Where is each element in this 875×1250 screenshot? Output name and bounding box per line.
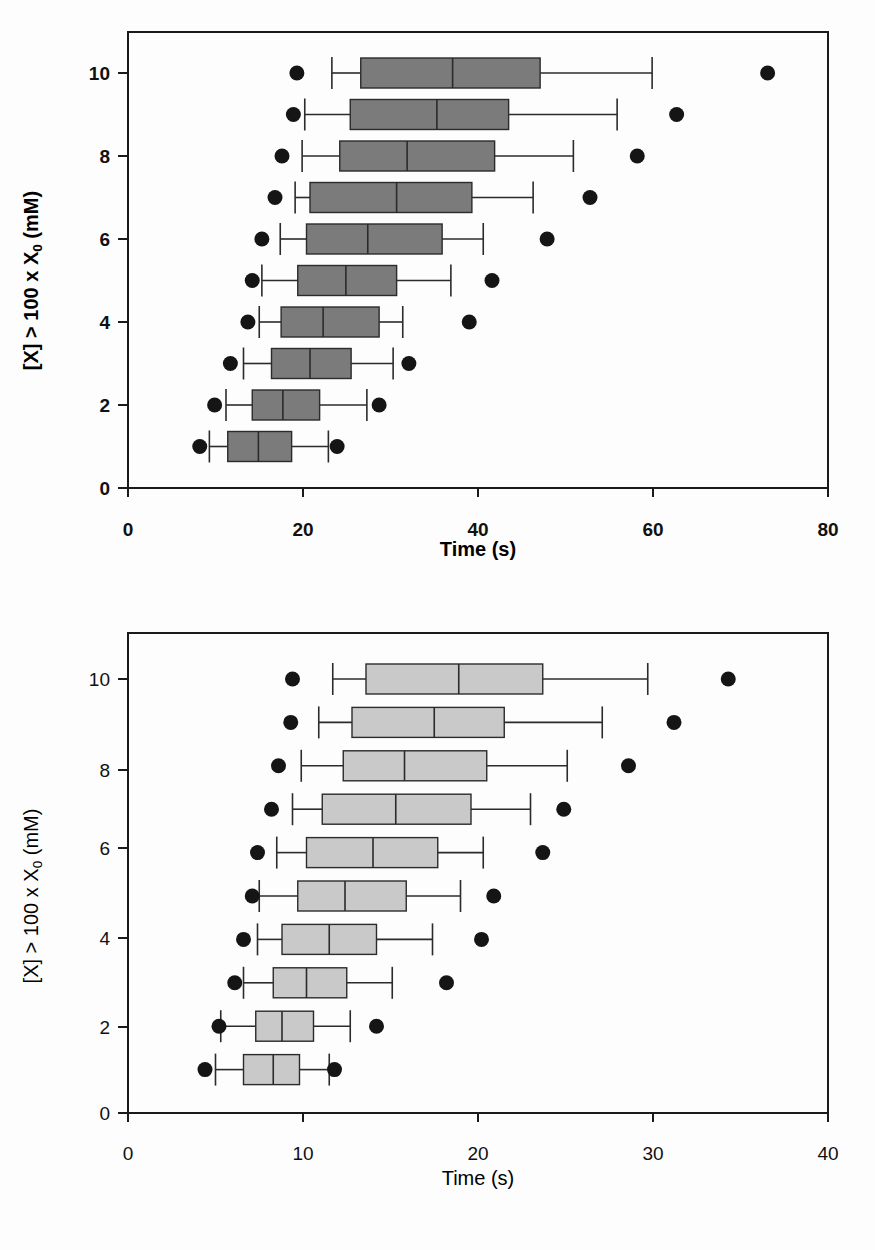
box-iqr bbox=[244, 1055, 300, 1085]
y-tick-label: 2 bbox=[99, 395, 110, 416]
box-iqr bbox=[352, 707, 504, 737]
outlier-point bbox=[268, 190, 283, 205]
plot-frame bbox=[128, 633, 828, 1113]
outlier-point bbox=[630, 149, 645, 164]
outlier-point bbox=[721, 672, 736, 687]
outlier-point bbox=[621, 758, 636, 773]
outlier-point bbox=[540, 232, 555, 247]
outlier-point bbox=[240, 315, 255, 330]
outlier-point bbox=[327, 1062, 342, 1077]
outlier-point bbox=[271, 758, 286, 773]
box-iqr bbox=[252, 390, 319, 420]
outlier-point bbox=[245, 273, 260, 288]
outlier-point bbox=[401, 356, 416, 371]
box-iqr bbox=[361, 58, 540, 88]
y-axis-title-suffix: (mM) bbox=[20, 191, 42, 244]
y-axis-title-prefix: [X] > 100 x X bbox=[20, 251, 42, 370]
outlier-point bbox=[583, 190, 598, 205]
y-axis-title-suffix: (mM) bbox=[20, 809, 42, 861]
boxplot-row bbox=[245, 880, 502, 912]
boxplot-row bbox=[245, 265, 500, 297]
x-tick-label: 20 bbox=[292, 519, 313, 540]
y-tick-label: 10 bbox=[89, 669, 110, 690]
outlier-point bbox=[283, 715, 298, 730]
outlier-point bbox=[192, 439, 207, 454]
boxplot-row bbox=[275, 140, 645, 172]
box-iqr bbox=[310, 183, 472, 213]
x-tick-label: 0 bbox=[123, 1143, 134, 1164]
figure-page: 020406080Time (s)0246810[X] > 100 x X0 (… bbox=[0, 0, 875, 1250]
outlier-point bbox=[227, 975, 242, 990]
outlier-point bbox=[245, 889, 260, 904]
chart-panel-bottom: 010203040Time (s)0246810[X] > 100 x X0 (… bbox=[0, 625, 875, 1250]
outlier-point bbox=[275, 149, 290, 164]
boxplot-bottom: 010203040Time (s)0246810[X] > 100 x X0 (… bbox=[0, 625, 875, 1250]
x-tick-label: 40 bbox=[467, 519, 488, 540]
outlier-point bbox=[669, 107, 684, 122]
y-axis-title-prefix: [X] > 100 x X bbox=[20, 868, 42, 983]
box-iqr bbox=[350, 100, 508, 130]
box-iqr bbox=[340, 141, 495, 171]
boxplot-row bbox=[285, 663, 736, 695]
boxplot-row bbox=[268, 182, 598, 214]
boxplot-row bbox=[289, 57, 775, 89]
outlier-point bbox=[264, 802, 279, 817]
outlier-point bbox=[760, 66, 775, 81]
x-tick-label: 10 bbox=[292, 1143, 313, 1164]
outlier-point bbox=[207, 398, 222, 413]
boxplot-row bbox=[236, 923, 489, 955]
boxplot-row bbox=[286, 99, 684, 131]
outlier-point bbox=[485, 273, 500, 288]
boxplot-row bbox=[264, 793, 571, 825]
outlier-point bbox=[250, 845, 265, 860]
outlier-point bbox=[223, 356, 238, 371]
y-tick-label: 8 bbox=[99, 146, 110, 167]
x-tick-label: 30 bbox=[642, 1143, 663, 1164]
y-axis-title-subscript: 0 bbox=[30, 244, 45, 252]
x-tick-label: 0 bbox=[123, 519, 134, 540]
outlier-point bbox=[254, 232, 269, 247]
x-tick-label: 20 bbox=[467, 1143, 488, 1164]
outlier-point bbox=[198, 1062, 213, 1077]
boxplot-row bbox=[198, 1054, 343, 1086]
y-tick-label: 10 bbox=[89, 63, 110, 84]
outlier-point bbox=[286, 107, 301, 122]
boxplot-row bbox=[212, 1010, 385, 1042]
outlier-point bbox=[212, 1019, 227, 1034]
box-iqr bbox=[366, 664, 543, 694]
y-tick-label: 4 bbox=[99, 312, 110, 333]
box-iqr bbox=[228, 432, 292, 462]
outlier-point bbox=[372, 398, 387, 413]
outlier-point bbox=[667, 715, 682, 730]
y-tick-label: 2 bbox=[99, 1017, 110, 1038]
x-axis-title: Time (s) bbox=[442, 1167, 515, 1189]
outlier-point bbox=[474, 932, 489, 947]
x-tick-label: 60 bbox=[642, 519, 663, 540]
y-tick-label: 0 bbox=[99, 478, 110, 499]
boxplot-row bbox=[271, 750, 636, 782]
box-iqr bbox=[307, 838, 438, 868]
y-tick-label: 4 bbox=[99, 928, 110, 949]
chart-panel-top: 020406080Time (s)0246810[X] > 100 x X0 (… bbox=[0, 0, 875, 625]
y-tick-label: 6 bbox=[99, 838, 110, 859]
outlier-point bbox=[330, 439, 345, 454]
y-tick-label: 8 bbox=[99, 760, 110, 781]
box-iqr bbox=[281, 307, 379, 337]
outlier-point bbox=[289, 66, 304, 81]
boxplot-row bbox=[250, 837, 550, 869]
boxplot-row bbox=[227, 967, 454, 999]
outlier-point bbox=[369, 1019, 384, 1034]
x-tick-label: 80 bbox=[817, 519, 838, 540]
box-iqr bbox=[298, 881, 407, 911]
box-iqr bbox=[322, 794, 471, 824]
box-iqr bbox=[272, 349, 352, 379]
box-iqr bbox=[298, 266, 397, 296]
outlier-point bbox=[285, 672, 300, 687]
outlier-point bbox=[556, 802, 571, 817]
box-iqr bbox=[256, 1011, 314, 1041]
x-tick-label: 40 bbox=[817, 1143, 838, 1164]
outlier-point bbox=[236, 932, 251, 947]
outlier-point bbox=[462, 315, 477, 330]
y-tick-label: 0 bbox=[99, 1103, 110, 1124]
box-iqr bbox=[343, 751, 487, 781]
